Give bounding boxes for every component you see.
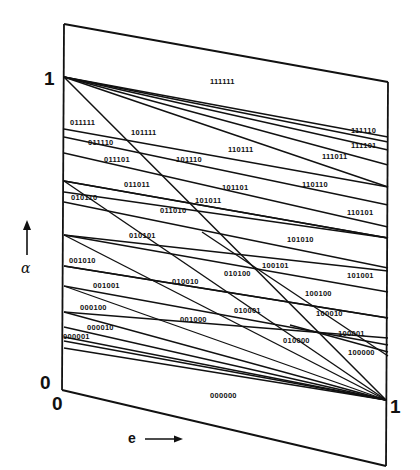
region-label: 011011 — [124, 180, 150, 189]
left-bottom-value: 0 — [40, 372, 51, 393]
region-label: 111011 — [322, 152, 348, 161]
region-label: 111111 — [210, 77, 235, 86]
mid-upper-lines — [64, 129, 388, 400]
region-label: 010100 — [224, 269, 251, 278]
region-label: 101010 — [287, 235, 314, 244]
binary-region-diagram: 1111111111101111011110110111111011110111… — [0, 0, 420, 470]
alpha-arrow-icon — [23, 220, 31, 255]
e-arrow-icon — [145, 436, 183, 443]
region-label: 101001 — [347, 271, 374, 280]
region-label: 011101 — [104, 155, 130, 164]
region-label: 101110 — [176, 155, 202, 164]
region-label: 110111 — [228, 145, 254, 154]
region-label: 101111 — [131, 128, 157, 137]
region-label: 000010 — [87, 323, 114, 332]
region-label: 111101 — [351, 141, 377, 150]
region-label: 010001 — [234, 306, 261, 315]
region-label: 011010 — [160, 206, 186, 215]
region-label: 011111 — [70, 118, 95, 127]
region-label: 100101 — [262, 261, 289, 270]
region-label: 100100 — [305, 289, 332, 298]
region-label: 100001 — [338, 329, 365, 338]
bottom-left-value: 0 — [52, 393, 63, 414]
region-label: 101101 — [222, 183, 248, 192]
region-label: 001001 — [93, 281, 120, 290]
left-top-value: 1 — [44, 68, 55, 89]
region-label: 110110 — [302, 180, 328, 189]
region-label: 000000 — [210, 391, 237, 400]
region-label: 101011 — [195, 196, 221, 205]
alpha-axis-label: α — [21, 260, 31, 276]
region-label: 110101 — [347, 208, 373, 217]
e-axis-label: e — [128, 430, 136, 446]
upper-fan-lines — [64, 77, 388, 400]
region-label: 111110 — [351, 126, 376, 135]
region-label: 001010 — [69, 256, 96, 265]
region-label: 000001 — [63, 332, 90, 341]
region-label: 100010 — [316, 309, 343, 318]
region-label: 010101 — [129, 231, 156, 240]
bottom-right-value: 1 — [390, 396, 401, 417]
region-label: 010110 — [71, 193, 97, 202]
region-label: 011110 — [88, 138, 114, 147]
region-label: 000100 — [80, 303, 107, 312]
region-label: 100000 — [348, 348, 375, 357]
region-label: 010000 — [283, 336, 310, 345]
region-label: 010010 — [172, 277, 199, 286]
region-label: 001000 — [180, 315, 207, 324]
